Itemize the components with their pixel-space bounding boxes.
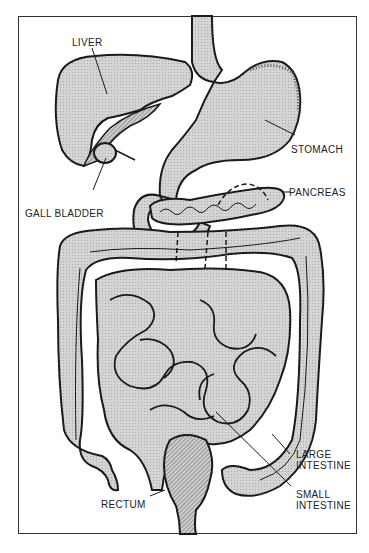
- label-pancreas: PANCREAS: [289, 187, 346, 198]
- label-small-intestine: SMALL INTESTINE: [296, 489, 351, 511]
- rectum: [164, 435, 212, 534]
- label-stomach: STOMACH: [291, 144, 343, 155]
- label-rectum: RECTUM: [101, 499, 146, 510]
- label-liver: LIVER: [72, 37, 102, 48]
- label-large-intestine: LARGE INTESTINE: [296, 449, 351, 471]
- label-gall-bladder: GALL BLADDER: [25, 208, 104, 219]
- esophagus: [192, 16, 222, 82]
